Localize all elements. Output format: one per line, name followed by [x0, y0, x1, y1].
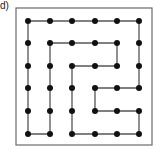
grid-dot [114, 18, 120, 24]
grid-dot [136, 63, 142, 69]
frame-border [16, 8, 152, 145]
grid-dot [136, 131, 142, 137]
grid-dot [25, 108, 31, 114]
grid-dot [69, 131, 75, 137]
grid-dot [69, 40, 75, 46]
grid-dot [92, 18, 98, 24]
grid-dot [47, 40, 53, 46]
grid-dot [114, 131, 120, 137]
grid-dot [92, 63, 98, 69]
grid-dot [69, 18, 75, 24]
grid-dot [47, 85, 53, 91]
dot-grid-path-diagram [0, 0, 155, 150]
grid-dot [114, 40, 120, 46]
grid-dot [47, 63, 53, 69]
grid-dots [25, 18, 142, 137]
grid-dot [136, 108, 142, 114]
grid-dot [47, 18, 53, 24]
grid-dot [92, 131, 98, 137]
grid-dot [136, 40, 142, 46]
grid-dot [69, 108, 75, 114]
grid-dot [114, 85, 120, 91]
grid-dot [69, 63, 75, 69]
grid-dot [114, 108, 120, 114]
grid-dot [25, 63, 31, 69]
grid-dot [47, 108, 53, 114]
grid-dot [25, 40, 31, 46]
grid-dot [47, 131, 53, 137]
maze-path-line [28, 21, 139, 134]
grid-dot [114, 63, 120, 69]
grid-dot [92, 85, 98, 91]
grid-dot [92, 40, 98, 46]
grid-dot [92, 108, 98, 114]
grid-dot [25, 85, 31, 91]
grid-dot [136, 85, 142, 91]
grid-dot [136, 18, 142, 24]
grid-dot [69, 85, 75, 91]
grid-dot [25, 131, 31, 137]
grid-dot [25, 18, 31, 24]
